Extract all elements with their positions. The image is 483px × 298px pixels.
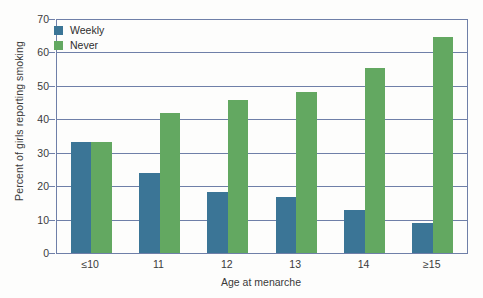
bar-weekly-13 — [276, 197, 297, 253]
y-tick-mark — [49, 19, 55, 20]
gridline — [57, 153, 467, 154]
x-tick-label-14: 14 — [358, 258, 370, 270]
x-tick-label-13: 13 — [289, 258, 301, 270]
plot-area — [56, 19, 468, 254]
y-tick-label: 20 — [19, 180, 49, 192]
y-tick-mark — [49, 86, 55, 87]
bar-weekly-12 — [207, 192, 228, 253]
x-tick-label-12: 12 — [221, 258, 233, 270]
y-axis-tick-labels: 010203040506070 — [14, 19, 49, 254]
y-tick-mark — [49, 153, 55, 154]
y-tick-mark — [49, 253, 55, 254]
y-tick-label: 40 — [19, 113, 49, 125]
bar-never-11 — [160, 113, 181, 253]
gridline — [57, 19, 467, 20]
bar-never-14 — [365, 68, 386, 253]
y-tick-label: 0 — [19, 247, 49, 259]
legend-label: Never — [70, 39, 98, 52]
y-tick-label: 30 — [19, 147, 49, 159]
x-tick-label-≥15: ≥15 — [423, 258, 440, 270]
gridline — [57, 86, 467, 87]
y-tick-mark — [49, 186, 55, 187]
bar-weekly-≥15 — [412, 223, 433, 253]
bar-never-≤10 — [91, 142, 112, 253]
y-tick-mark — [49, 52, 55, 53]
legend-swatch-icon — [54, 41, 63, 50]
legend-label: Weekly — [70, 24, 104, 37]
x-tick-label-≤10: ≤10 — [81, 258, 98, 270]
gridline — [57, 119, 467, 120]
bar-never-≥15 — [433, 37, 454, 253]
gridline — [57, 220, 467, 221]
gridline — [57, 186, 467, 187]
bar-never-13 — [296, 92, 317, 253]
y-tick-label: 70 — [19, 13, 49, 25]
bar-never-12 — [228, 100, 249, 253]
y-tick-label: 50 — [19, 80, 49, 92]
chart-legend: WeeklyNever — [54, 24, 104, 54]
bar-chart-figure: Percent of girls reporting smoking 01020… — [0, 0, 483, 298]
x-tick-label-11: 11 — [153, 258, 164, 270]
bar-weekly-≤10 — [71, 142, 92, 253]
y-tick-label: 60 — [19, 46, 49, 58]
plot-inner — [57, 19, 467, 253]
bar-weekly-11 — [139, 173, 160, 253]
bar-weekly-14 — [344, 210, 365, 253]
x-axis-title: Age at menarche — [56, 276, 466, 288]
y-tick-mark — [49, 220, 55, 221]
gridline — [57, 52, 467, 53]
legend-swatch-icon — [54, 26, 63, 35]
y-tick-label: 10 — [19, 214, 49, 226]
y-tick-mark — [49, 119, 55, 120]
legend-item-weekly: Weekly — [54, 24, 104, 37]
legend-item-never: Never — [54, 39, 104, 52]
